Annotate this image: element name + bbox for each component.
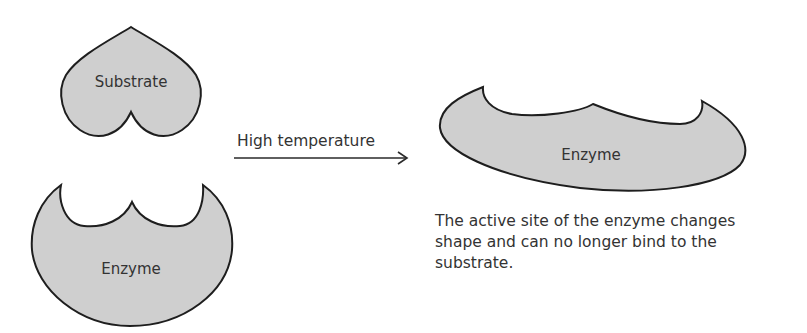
denaturation-caption: The active site of the enzyme changes sh… bbox=[435, 211, 775, 274]
enzyme-label-left: Enzyme bbox=[101, 260, 161, 278]
substrate-label: Substrate bbox=[95, 73, 168, 91]
enzyme-denaturation-diagram: Substrate Enzyme High temperature Enzyme… bbox=[0, 0, 807, 333]
arrow-label: High temperature bbox=[237, 132, 375, 150]
diagram-canvas bbox=[0, 0, 807, 333]
high-temperature-arrow bbox=[234, 152, 407, 164]
enzyme-shape-right bbox=[440, 87, 745, 191]
enzyme-label-right: Enzyme bbox=[561, 146, 621, 164]
enzyme-shape-left bbox=[32, 185, 233, 326]
